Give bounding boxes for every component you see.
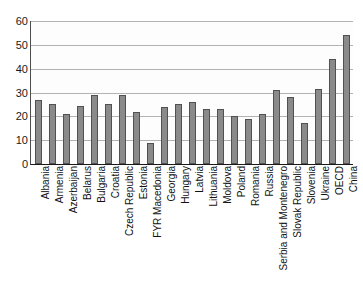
x-tick-label: Armenia [55, 166, 65, 203]
x-tick-label: Georgia [167, 166, 177, 202]
x-tick-label: Moldova [223, 166, 233, 204]
x-tick-label: China [349, 166, 359, 192]
x-tick-label: Ukraine [321, 166, 331, 200]
bar [91, 95, 98, 164]
bar [175, 104, 182, 164]
y-tick-label: 10 [2, 135, 28, 146]
x-tick-label: Azerbaijan [69, 166, 79, 213]
x-tick-label: Slovak Republic [293, 166, 303, 238]
bar [49, 104, 56, 164]
y-tick-label: 30 [2, 88, 28, 99]
bar [315, 89, 322, 164]
x-axis-labels: AlbaniaArmeniaAzerbaijanBelarusBulgariaC… [30, 166, 352, 286]
bar [189, 102, 196, 164]
x-tick-label: Romania [251, 166, 261, 206]
x-tick-label: Czech Republic [125, 166, 135, 236]
bar [273, 90, 280, 164]
x-tick-label: Latvia [195, 166, 205, 193]
bar [119, 95, 126, 164]
x-tick-label: Belarus [83, 166, 93, 200]
x-tick-label: OECD [335, 166, 345, 195]
y-tick-label: 60 [2, 16, 28, 27]
y-tick-label: 20 [2, 111, 28, 122]
plot-area [30, 21, 353, 165]
bar-chart: 0102030405060 AlbaniaArmeniaAzerbaijanBe… [0, 0, 363, 289]
y-axis: 0102030405060 [0, 14, 28, 172]
bar [133, 112, 140, 164]
bar [35, 100, 42, 164]
x-tick-label: Estonia [139, 166, 149, 199]
x-tick-label: Croatia [111, 166, 121, 198]
y-tick-label: 50 [2, 40, 28, 51]
bar [245, 119, 252, 164]
bar [231, 116, 238, 164]
x-tick-label: Russia [265, 166, 275, 197]
x-tick-label: Poland [237, 166, 247, 197]
bar [77, 106, 84, 164]
bar [105, 104, 112, 164]
bar [301, 123, 308, 164]
bar [147, 143, 154, 164]
y-tick-label: 0 [2, 159, 28, 170]
x-tick-label: Lithuania [209, 166, 219, 207]
bar [203, 109, 210, 164]
bar [217, 109, 224, 164]
x-tick-label: Slovenia [307, 166, 317, 204]
x-tick-label: Bulgaria [97, 166, 107, 203]
bars-layer [31, 21, 353, 164]
x-tick-label: Serbia and Montenegro [279, 166, 289, 271]
x-tick-label: Albania [41, 166, 51, 199]
bar [343, 35, 350, 164]
y-tick-label: 40 [2, 64, 28, 75]
bar [161, 107, 168, 164]
bar [63, 114, 70, 164]
x-tick-label: FYR Macedonia [153, 166, 163, 238]
bar [287, 97, 294, 164]
x-tick-label: Hungary [181, 166, 191, 204]
bar [329, 59, 336, 164]
bar [259, 114, 266, 164]
